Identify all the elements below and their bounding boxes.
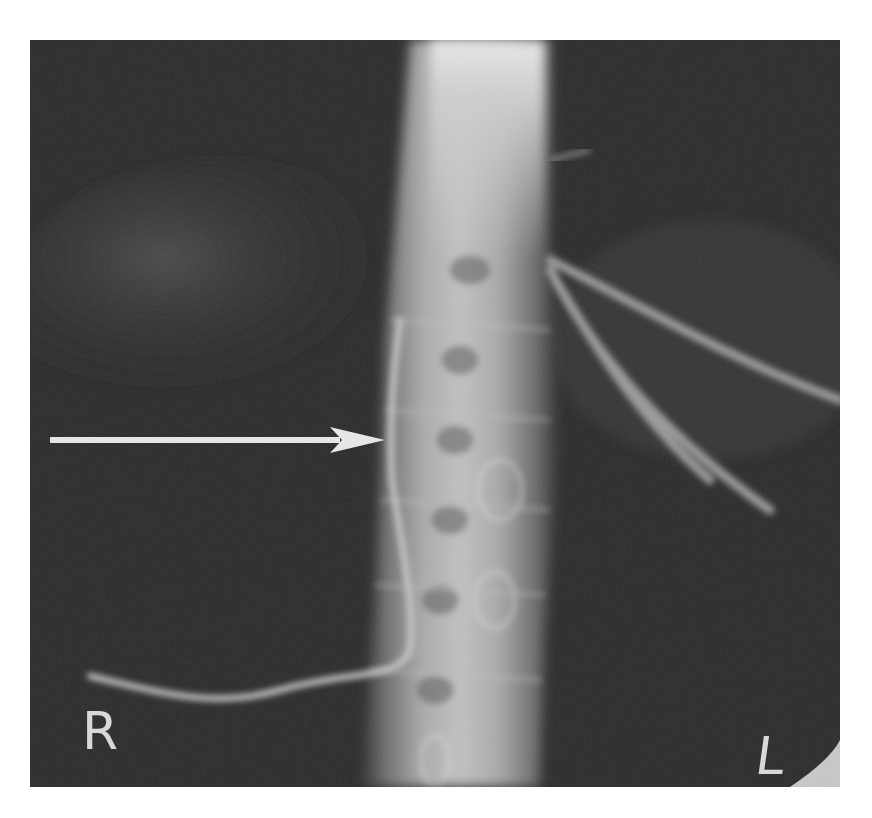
xray-film: R L (30, 40, 840, 787)
right-side-marker: R (82, 705, 118, 757)
arrow-annotation (30, 40, 840, 787)
